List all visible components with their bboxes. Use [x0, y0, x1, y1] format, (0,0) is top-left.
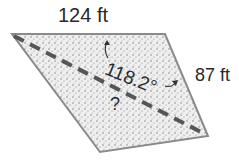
side-length-top: 124 ft	[58, 4, 108, 27]
parallelogram-shape	[12, 34, 208, 152]
side-length-right: 87 ft	[195, 65, 230, 86]
unknown-diagonal-label: ?	[110, 94, 120, 115]
